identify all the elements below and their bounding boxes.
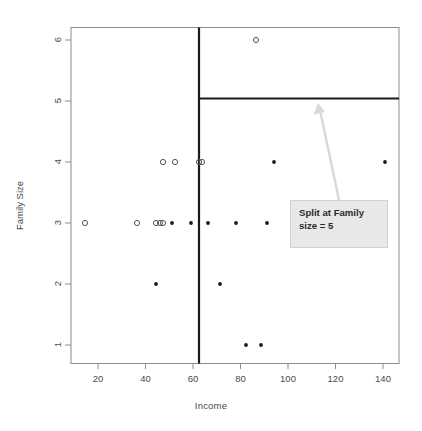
filled-dot-markers [154,160,387,347]
x-tick-label-40: 40 [131,373,161,384]
y-tick-label-6: 6 [52,33,63,47]
y-axis-ticks [65,40,71,345]
x-tick-label-20: 20 [83,373,113,384]
y-axis-title: Family Size [14,181,25,230]
x-tick-label-60: 60 [178,373,208,384]
split-annotation-text: Split at Family size = 5 [299,207,380,233]
y-tick-label-5: 5 [52,94,63,108]
y-tick-label-1: 1 [52,338,63,352]
plot-frame [71,28,399,364]
callout-arrow [314,103,340,200]
open-circle-markers [82,37,258,225]
x-tick-label-100: 100 [273,373,303,384]
x-tick-label-80: 80 [226,373,256,384]
x-tick-label-120: 120 [321,373,351,384]
split-annotation-box: Split at Family size = 5 [290,200,388,248]
x-axis-title: Income [0,400,422,411]
y-tick-label-2: 2 [52,277,63,291]
scatter-plot-figure: 6 5 4 3 2 1 20 40 60 80 100 120 140 Fami… [0,0,422,431]
y-tick-label-4: 4 [52,155,63,169]
x-tick-label-140: 140 [368,373,398,384]
x-axis-ticks [98,364,383,370]
y-tick-label-3: 3 [52,216,63,230]
